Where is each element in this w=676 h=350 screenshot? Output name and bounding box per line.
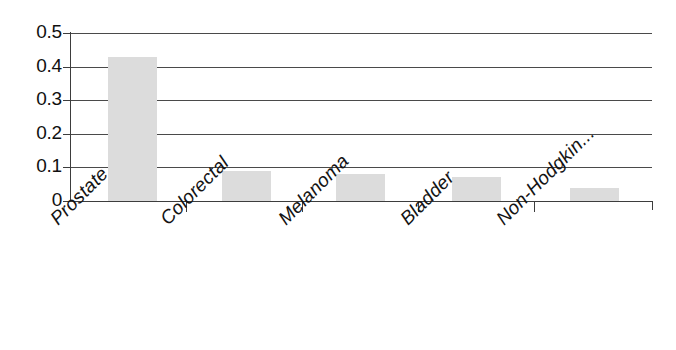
y-tick-0.2: [63, 134, 71, 135]
y-axis-line: [70, 32, 71, 202]
y-tick-0.1: [63, 167, 71, 168]
x-tick-4: [534, 202, 535, 212]
y-tick-0.5: [63, 33, 71, 34]
gridline-0.5: [70, 33, 652, 34]
y-axis-label-0.3: 0.3: [16, 89, 62, 108]
gridline-0.3: [70, 100, 652, 101]
y-axis-label-0.2: 0.2: [16, 123, 62, 142]
gridline-0.2: [70, 134, 652, 135]
bar-prostate: [108, 57, 157, 201]
x-axis-endcap-right: [652, 201, 653, 210]
x-axis-line: [70, 201, 653, 202]
bar-melanoma: [336, 174, 385, 201]
bar-colorectal: [222, 171, 271, 201]
bar-chart: 0.5 0.4 0.3 0.2 0.1 0 Prostate Colorecta…: [0, 0, 676, 350]
bar-non-hodgkin: [570, 188, 619, 201]
y-axis-label-0.1: 0.1: [16, 156, 62, 175]
plot-area: [70, 33, 652, 201]
y-axis-label-0.5: 0.5: [16, 22, 62, 41]
y-axis-labels: 0.5 0.4 0.3 0.2 0.1 0: [8, 0, 62, 350]
y-axis-label-0.4: 0.4: [16, 56, 62, 75]
y-tick-0.4: [63, 67, 71, 68]
bar-bladder: [452, 177, 501, 201]
y-tick-0.3: [63, 100, 71, 101]
gridline-0.4: [70, 67, 652, 68]
